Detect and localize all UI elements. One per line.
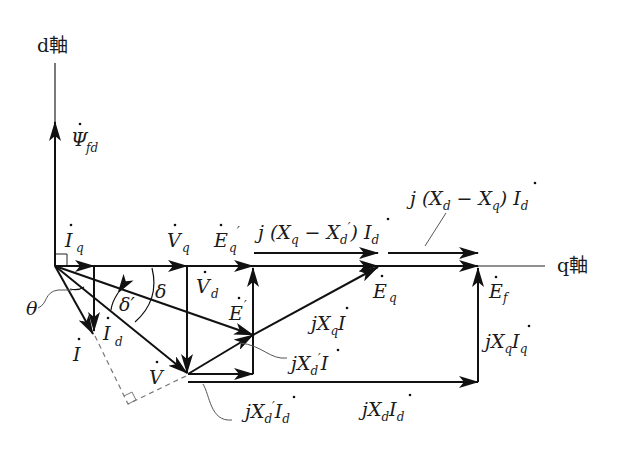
- label-jxd-id: jXdId: [358, 394, 411, 424]
- label-jxq-iq: jXqIq: [481, 325, 530, 356]
- svg-text:d: d: [211, 287, 219, 301]
- dashed-projection: [95, 336, 188, 404]
- d-axis-label: d軸: [37, 34, 68, 56]
- label-eq: E q: [372, 275, 397, 305]
- label-vd: V d: [196, 271, 219, 301]
- svg-text:I: I: [64, 229, 73, 251]
- svg-text:E: E: [488, 280, 503, 302]
- svg-text:f: f: [502, 291, 510, 305]
- svg-text:d: d: [115, 335, 123, 349]
- label-j-xd-minus-xq-id: j (Xd − Xq) Id: [406, 182, 536, 213]
- svg-text:q: q: [182, 241, 190, 255]
- label-eq-prime: E q ′: [213, 224, 240, 255]
- svg-text:j (Xq − Xd′) Id: j (Xq − Xd′) Id: [254, 221, 379, 247]
- label-i: I: [72, 338, 81, 365]
- label-id: I d: [102, 317, 123, 349]
- phasor-diagram: d軸 q軸 Ψ fd I q V q E q ′ V d E ′ E q E f: [0, 0, 625, 453]
- q-axis-label: q軸: [557, 254, 588, 276]
- right-angle-mark-dashed: [124, 392, 136, 404]
- label-e-prime: E ′: [228, 297, 247, 324]
- svg-text:q: q: [76, 241, 84, 255]
- label-delta-prime: δ′: [119, 293, 135, 315]
- svg-text:V: V: [167, 229, 183, 251]
- svg-text:jXd′I: jXd′I: [287, 352, 329, 378]
- label-iq: I q: [64, 224, 84, 255]
- svg-text:′: ′: [237, 225, 240, 239]
- svg-text:V: V: [149, 366, 165, 388]
- label-theta: θ: [26, 297, 38, 319]
- svg-text:′: ′: [244, 299, 247, 313]
- svg-text:fd: fd: [85, 141, 98, 155]
- label-psi-fd: Ψ fd: [71, 123, 98, 155]
- svg-text:I: I: [102, 322, 111, 344]
- svg-text:j (Xd − Xq) Id: j (Xd − Xq) Id: [406, 187, 529, 213]
- svg-text:I: I: [72, 343, 81, 365]
- svg-text:E: E: [372, 280, 387, 302]
- label-v: V: [149, 361, 165, 388]
- label-delta: δ: [155, 280, 166, 302]
- svg-text:E: E: [228, 302, 243, 324]
- label-ef: E f: [488, 276, 510, 305]
- svg-text:jXdId: jXdId: [358, 398, 405, 424]
- label-jxdp-id: jXd′Id: [241, 396, 295, 426]
- leader-jxdp-i: [240, 343, 287, 358]
- label-jxdp-i: jXd′I: [287, 349, 339, 378]
- svg-text:jXd′Id: jXd′Id: [241, 400, 290, 426]
- jxdp-i-arrow: [188, 335, 253, 374]
- label-vq: V q: [167, 224, 190, 255]
- leader-jxdp-id: [203, 384, 232, 420]
- svg-text:q: q: [389, 291, 397, 305]
- svg-text:V: V: [196, 275, 212, 297]
- right-angle-mark-origin: [55, 254, 67, 266]
- theta-leader: [38, 290, 72, 308]
- svg-text:jXqIq: jXqIq: [481, 330, 528, 356]
- svg-text:E: E: [213, 229, 228, 251]
- label-jxq-i: jXqI: [307, 307, 348, 338]
- svg-text:q: q: [229, 241, 237, 255]
- leader-xd-xq: [425, 213, 446, 246]
- delta-prime-arc: [111, 293, 118, 310]
- svg-text:jXqI: jXqI: [307, 312, 346, 338]
- label-j-xq-minus-xdp-id: j (Xq − Xd′) Id: [254, 218, 389, 247]
